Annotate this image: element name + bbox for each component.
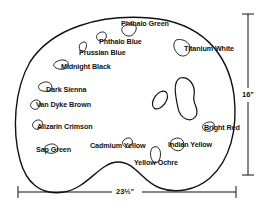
thumb-hole-large bbox=[175, 78, 197, 120]
label-titanium-white: Titanium White bbox=[184, 45, 234, 52]
palette-diagram: Phthalo Green Phthalo Blue Prussian Blue… bbox=[0, 0, 268, 216]
width-dimension-label: 23½" bbox=[114, 188, 136, 196]
label-phthalo-blue: Phthalo Blue bbox=[99, 38, 142, 45]
label-cadmium-yellow: Cadmium Yellow bbox=[90, 142, 146, 149]
label-sap-green: Sap Green bbox=[36, 146, 71, 153]
label-bright-red: Bright Red bbox=[204, 124, 240, 131]
label-midnight-black: Midnight Black bbox=[61, 63, 111, 70]
label-phthalo-green: Phthalo Green bbox=[121, 20, 169, 27]
label-indian-yellow: Indian Yellow bbox=[168, 141, 212, 148]
height-dimension-label: 16" bbox=[240, 91, 256, 99]
label-alizarin-crimson: Alizarin Crimson bbox=[37, 123, 93, 130]
thumb-hole-small bbox=[149, 88, 170, 111]
label-yellow-ochre: Yellow Ochre bbox=[134, 159, 178, 166]
label-prussian-blue: Prussian Blue bbox=[79, 49, 126, 56]
label-van-dyke-brown: Van Dyke Brown bbox=[36, 101, 91, 108]
label-dark-sienna: Dark Sienna bbox=[46, 86, 86, 93]
